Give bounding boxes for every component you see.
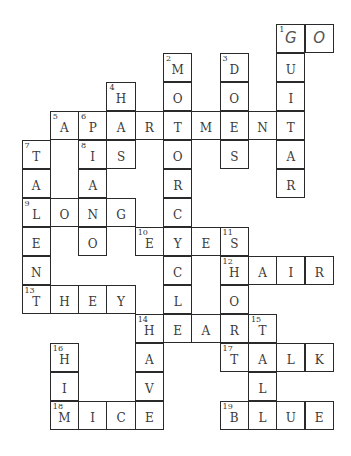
crossword-cell[interactable]: 16H: [50, 343, 79, 373]
crossword-cell[interactable]: 6P: [78, 111, 107, 141]
crossword-cell[interactable]: I: [276, 82, 305, 112]
crossword-cell[interactable]: K: [305, 343, 334, 373]
crossword-cell[interactable]: L: [248, 401, 277, 431]
crossword-cell[interactable]: N: [22, 256, 51, 286]
crossword-cell[interactable]: S: [106, 140, 135, 170]
crossword-cell[interactable]: I: [78, 401, 107, 431]
crossword-cell[interactable]: R: [276, 169, 305, 199]
crossword-cell[interactable]: G: [106, 198, 135, 228]
crossword-cell[interactable]: E: [135, 401, 164, 431]
crossword-cell[interactable]: A: [78, 169, 107, 199]
cell-letter: A: [249, 353, 276, 367]
crossword-cell[interactable]: U: [276, 53, 305, 83]
cell-letter: I: [277, 266, 304, 280]
crossword-cell[interactable]: A: [135, 343, 164, 373]
crossword-cell[interactable]: N: [78, 198, 107, 228]
crossword-cell[interactable]: E: [78, 285, 107, 315]
crossword-cell[interactable]: U: [276, 401, 305, 431]
crossword-cell[interactable]: L: [276, 343, 305, 373]
crossword-cell[interactable]: 3D: [220, 53, 249, 83]
crossword-cell[interactable]: T: [163, 111, 192, 141]
cell-letter: A: [277, 150, 304, 164]
crossword-cell[interactable]: T: [276, 111, 305, 141]
crossword-cell[interactable]: O: [50, 198, 79, 228]
crossword-cell[interactable]: 4H: [106, 82, 135, 112]
cell-letter: I: [79, 150, 106, 164]
crossword-cell[interactable]: C: [163, 198, 192, 228]
crossword-cell[interactable]: E: [305, 401, 334, 431]
clue-number: 18: [53, 402, 63, 411]
crossword-cell[interactable]: 1G: [276, 24, 305, 54]
crossword-cell[interactable]: O: [220, 82, 249, 112]
crossword-cell[interactable]: E: [220, 111, 249, 141]
crossword-cell[interactable]: I: [276, 256, 305, 286]
crossword-cell[interactable]: C: [163, 256, 192, 286]
cell-letter: V: [136, 382, 163, 396]
crossword-cell[interactable]: 9L: [22, 198, 51, 228]
crossword-cell[interactable]: 8I: [78, 140, 107, 170]
cell-letter: C: [107, 411, 134, 425]
crossword-cell[interactable]: 5A: [50, 111, 79, 141]
cell-letter: E: [136, 237, 163, 251]
crossword-cell[interactable]: 7T: [22, 140, 51, 170]
crossword-cell[interactable]: E: [191, 227, 220, 257]
crossword-cell[interactable]: A: [106, 111, 135, 141]
crossword-cell[interactable]: Y: [163, 227, 192, 257]
clue-number: 7: [25, 141, 30, 150]
clue-number: 2: [166, 54, 171, 63]
crossword-cell[interactable]: 19B: [220, 401, 249, 431]
clue-number: 14: [138, 315, 148, 324]
cell-letter: S: [221, 237, 248, 251]
crossword-cell[interactable]: 18M: [50, 401, 79, 431]
cell-letter: E: [79, 295, 106, 309]
crossword-cell[interactable]: R: [135, 111, 164, 141]
crossword-cell[interactable]: 15T: [248, 314, 277, 344]
crossword-cell[interactable]: 11S: [220, 227, 249, 257]
clue-number: 8: [81, 141, 86, 150]
crossword-cell[interactable]: H: [50, 285, 79, 315]
cell-letter: O: [51, 208, 78, 222]
crossword-cell[interactable]: O: [305, 24, 334, 54]
crossword-cell[interactable]: A: [22, 169, 51, 199]
crossword-cell[interactable]: M: [191, 111, 220, 141]
crossword-cell[interactable]: L: [163, 285, 192, 315]
crossword-cell[interactable]: L: [248, 372, 277, 402]
crossword-cell[interactable]: O: [78, 227, 107, 257]
crossword-cell[interactable]: R: [220, 314, 249, 344]
crossword-cell[interactable]: A: [276, 140, 305, 170]
crossword-cell[interactable]: E: [163, 314, 192, 344]
crossword-cell[interactable]: A: [191, 314, 220, 344]
cell-letter: C: [164, 208, 191, 222]
crossword-cell[interactable]: O: [163, 140, 192, 170]
crossword-cell[interactable]: 12H: [220, 256, 249, 286]
cell-letter: A: [192, 324, 219, 338]
cell-letter: I: [51, 382, 78, 396]
clue-number: 4: [109, 83, 114, 92]
cell-letter: L: [277, 353, 304, 367]
crossword-cell[interactable]: V: [135, 372, 164, 402]
crossword-cell[interactable]: S: [220, 140, 249, 170]
cell-letter: U: [277, 63, 304, 77]
cell-letter: T: [249, 324, 276, 338]
crossword-cell[interactable]: N: [248, 111, 277, 141]
crossword-cell[interactable]: R: [163, 169, 192, 199]
crossword-cell[interactable]: A: [248, 343, 277, 373]
crossword-cell[interactable]: I: [50, 372, 79, 402]
crossword-cell[interactable]: C: [106, 401, 135, 431]
crossword-cell[interactable]: 2M: [163, 53, 192, 83]
crossword-cell[interactable]: Y: [106, 285, 135, 315]
cell-letter: A: [107, 121, 134, 135]
cell-letter: T: [164, 121, 191, 135]
crossword-cell[interactable]: A: [248, 256, 277, 286]
crossword-cell[interactable]: O: [163, 82, 192, 112]
crossword-cell[interactable]: 14H: [135, 314, 164, 344]
cell-letter: R: [136, 121, 163, 135]
crossword-cell[interactable]: R: [305, 256, 334, 286]
crossword-cell[interactable]: E: [22, 227, 51, 257]
cell-letter: E: [192, 237, 219, 251]
crossword-cell[interactable]: 13T: [22, 285, 51, 315]
crossword-cell[interactable]: 17T: [220, 343, 249, 373]
crossword-cell[interactable]: O: [220, 285, 249, 315]
crossword-cell[interactable]: 10E: [135, 227, 164, 257]
clue-number: 5: [53, 112, 58, 121]
